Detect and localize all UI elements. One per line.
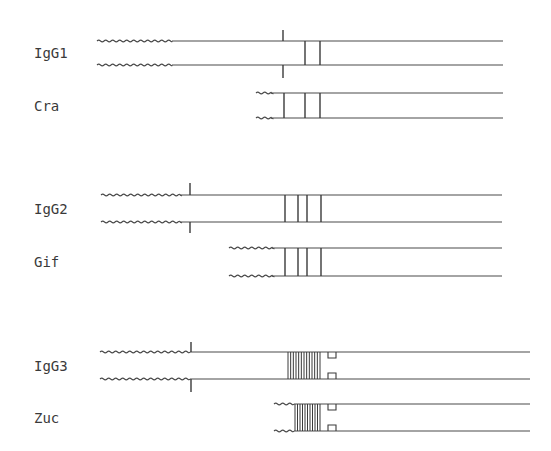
variable-region-wavy [100, 378, 190, 380]
chain-label: Cra [34, 98, 59, 114]
carbohydrate-site-marker [328, 373, 336, 379]
variable-region-wavy [229, 275, 274, 277]
hinge-region-diagram: IgG1CraIgG2GifIgG3Zuc [0, 0, 551, 451]
chain-label: Gif [34, 254, 59, 270]
carbohydrate-site-marker [328, 352, 336, 358]
variable-region-wavy [101, 221, 182, 223]
chain-igg1: IgG1 [34, 30, 503, 78]
variable-region-wavy [101, 194, 182, 196]
carbohydrate-site-marker [328, 404, 336, 410]
variable-region-wavy [100, 351, 190, 353]
variable-region-wavy [274, 430, 294, 432]
carbohydrate-site-marker [328, 425, 336, 431]
chain-igg2: IgG2 [34, 183, 502, 233]
variable-region-wavy [274, 403, 294, 405]
group-3: IgG3Zuc [34, 342, 530, 432]
variable-region-wavy [97, 40, 172, 42]
variable-region-wavy [97, 64, 172, 66]
chain-gif: Gif [34, 247, 502, 277]
chain-label: Zuc [34, 410, 59, 426]
chain-label: IgG2 [34, 201, 68, 217]
variable-region-wavy [256, 92, 273, 94]
group-2: IgG2Gif [34, 183, 502, 277]
variable-region-wavy [229, 247, 274, 249]
chain-label: IgG1 [34, 45, 68, 61]
group-1: IgG1Cra [34, 30, 503, 119]
chain-label: IgG3 [34, 358, 68, 374]
chain-zuc: Zuc [34, 403, 530, 432]
chain-cra: Cra [34, 92, 503, 119]
variable-region-wavy [256, 117, 273, 119]
chain-igg3: IgG3 [34, 342, 530, 392]
